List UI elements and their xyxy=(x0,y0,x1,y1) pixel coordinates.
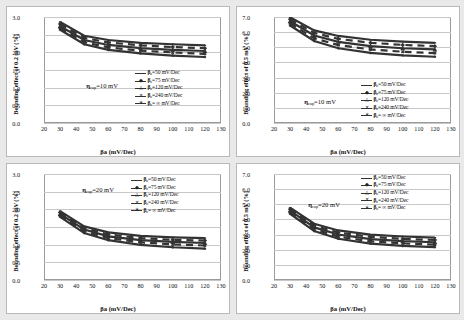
y-tick-label: 1.0 xyxy=(242,104,250,111)
x-tick-label: 90 xyxy=(384,282,390,289)
x-tick-label: 130 xyxy=(446,282,455,289)
legend: –βc=50 mV/Dec◆βc=75 mV/Dec△βc=120 mV/Dec… xyxy=(135,70,183,108)
series-line xyxy=(290,21,435,49)
x-tick-label: 130 xyxy=(446,125,455,132)
y-tick-label: 6.0 xyxy=(242,186,250,193)
x-tick-label: 80 xyxy=(137,125,143,132)
legend-marker-icon: △ xyxy=(361,98,372,104)
chart-panel-bottom-left: Bounding effect of 0.2 mV (%) ηcap=20 mV… xyxy=(6,163,230,314)
x-tick-label: 100 xyxy=(398,125,407,132)
legend-item: ∗βc= ∞ mV/Dec xyxy=(131,207,179,215)
x-tick-label: 60 xyxy=(335,282,341,289)
series-marker xyxy=(204,244,206,246)
plot-area: ηcap=20 mV –βc=50 mV/Dec◆βc=75 mV/Dec△βc… xyxy=(252,172,453,291)
x-tick-label: 60 xyxy=(105,125,111,132)
legend-marker-icon: △ xyxy=(135,86,146,92)
series-marker xyxy=(434,48,436,50)
series-marker xyxy=(171,49,173,51)
x-tick-label: 40 xyxy=(73,125,79,132)
x-tick-label: 60 xyxy=(335,125,341,132)
x-tick-label: 30 xyxy=(287,282,293,289)
chart-panel-top-left: Bounding effect of 0.2 mV (%) ηcap=10 mV… xyxy=(6,6,230,157)
series-marker xyxy=(337,44,339,46)
series-marker xyxy=(369,45,371,47)
legend-marker-icon: ✕ xyxy=(361,105,372,111)
series-marker xyxy=(313,34,315,36)
y-tick-label: 7.0 xyxy=(242,14,250,21)
y-tick-label: 3.0 xyxy=(12,14,20,21)
y-tick-label: 2.0 xyxy=(242,246,250,253)
series-marker xyxy=(434,52,436,54)
legend: –βc=50 mV/Dec◆βc=75 mV/Dec△βc=120 mV/Dec… xyxy=(131,177,179,215)
y-tick-label: 4.0 xyxy=(242,59,250,66)
y-tick-label: 5.0 xyxy=(242,44,250,51)
legend: –βc=50 mV/Dec◆βc=75 mV/Dec△βc=120 mV/Dec… xyxy=(361,174,409,212)
series-line xyxy=(60,217,205,249)
y-tick-label: 7.0 xyxy=(242,171,250,178)
legend-marker-icon: ∗ xyxy=(361,206,372,212)
legend-label: βc= ∞ mV/Dec xyxy=(144,207,176,216)
x-tick-label: 100 xyxy=(168,125,177,132)
legend-marker-icon: △ xyxy=(361,190,372,196)
x-tick-label: 90 xyxy=(154,125,160,132)
y-tick-label: 4.0 xyxy=(242,216,250,223)
y-tick-label: 0.5 xyxy=(12,259,20,266)
x-axis-label: βa (mV/Dec) xyxy=(237,305,459,312)
series-line xyxy=(60,213,205,241)
y-tick-label: 3.0 xyxy=(242,231,250,238)
figure-sheet: Bounding effect of 0.2 mV (%) ηcap=10 mV… xyxy=(0,0,464,320)
series-marker xyxy=(171,51,173,53)
y-tick-label: 2.5 xyxy=(12,188,20,195)
y-tick-label: 6.0 xyxy=(242,29,250,36)
series-marker xyxy=(369,48,371,50)
y-tick-label: 2.5 xyxy=(12,31,20,38)
plot-area: ηcap=20 mV –βc=50 mV/Dec◆βc=75 mV/Dec△βc… xyxy=(22,172,223,291)
x-tick-label: 60 xyxy=(105,282,111,289)
plot-area: ηcap=10 mV –βc=50 mV/Dec◆βc=75 mV/Dec△βc… xyxy=(22,15,223,134)
x-tick-label: 40 xyxy=(303,282,309,289)
y-tick-label: 0.5 xyxy=(12,102,20,109)
series-marker xyxy=(139,49,141,51)
x-tick-label: 80 xyxy=(367,125,373,132)
series-marker xyxy=(401,47,403,49)
legend-marker-icon: ∗ xyxy=(361,113,372,119)
x-tick-label: 100 xyxy=(168,282,177,289)
legend-marker-icon: ◆ xyxy=(361,90,372,96)
series-line xyxy=(60,26,205,51)
legend-marker-icon: ◆ xyxy=(135,78,146,84)
legend-marker-icon: – xyxy=(361,82,372,88)
legend-marker-icon: ✕ xyxy=(131,200,142,206)
eta-cap-annotation: ηcap=20 mV xyxy=(82,186,114,194)
chart-panel-bottom-right: Bounding effect of 0.5 mV (%) ηcap=20 mV… xyxy=(236,163,460,314)
x-tick-label: 50 xyxy=(89,282,95,289)
legend-label: βc= ∞ mV/Dec xyxy=(374,112,406,121)
legend-marker-icon: ✕ xyxy=(361,198,372,204)
legend-marker-icon: – xyxy=(131,178,142,184)
x-tick-label: 130 xyxy=(216,282,225,289)
y-tick-label: 0.0 xyxy=(242,120,250,127)
chart-panel-top-right: Bounding effect of 0.5 mV (%) ηcap=10 mV… xyxy=(236,6,460,157)
legend-marker-icon: ∗ xyxy=(135,101,146,107)
x-tick-label: 30 xyxy=(57,125,63,132)
legend-marker-icon: △ xyxy=(131,193,142,199)
legend-label: βc= ∞ mV/Dec xyxy=(148,100,180,109)
x-tick-label: 50 xyxy=(319,282,325,289)
y-tick-label: 5.0 xyxy=(242,201,250,208)
series-marker xyxy=(204,242,206,244)
series-marker xyxy=(204,53,206,55)
series-marker xyxy=(171,243,173,245)
x-tick-label: 50 xyxy=(319,125,325,132)
x-tick-label: 20 xyxy=(271,282,277,289)
y-tick-label: 2.0 xyxy=(12,206,20,213)
y-tick-label: 0.0 xyxy=(12,120,20,127)
series-marker xyxy=(289,22,291,24)
series-marker xyxy=(171,241,173,243)
y-tick-label: 1.5 xyxy=(12,67,20,74)
y-tick-label: 2.0 xyxy=(12,49,20,56)
series-lines xyxy=(44,17,221,123)
eta-cap-annotation: ηcap=10 mV xyxy=(304,98,336,106)
x-tick-label: 70 xyxy=(351,282,357,289)
y-tick-label: 0.0 xyxy=(12,277,20,284)
x-tick-label: 90 xyxy=(384,125,390,132)
x-axis-label: βa (mV/Dec) xyxy=(237,148,459,155)
